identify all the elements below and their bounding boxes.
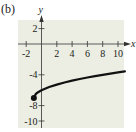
x-tick-label: 6	[85, 48, 90, 59]
start-point-marker	[31, 95, 37, 101]
chart: xy -22468102-4-8-10	[0, 0, 136, 132]
x-tick-label: -2	[22, 48, 30, 59]
y-axis-label: y	[38, 4, 44, 15]
y-tick-label: 2	[33, 23, 38, 34]
x-tick-label: 2	[54, 48, 59, 59]
x-axis-label: x	[130, 38, 136, 49]
x-tick-label: 8	[100, 48, 105, 59]
y-tick-label: -8	[29, 100, 37, 111]
x-tick-label: 4	[70, 48, 75, 59]
x-tick-label: 10	[113, 48, 123, 59]
y-tick-label: -4	[29, 69, 37, 80]
y-tick-label: -10	[24, 116, 37, 127]
y-axis-arrow-icon	[39, 15, 43, 22]
x-axis-arrow-icon	[124, 42, 131, 46]
